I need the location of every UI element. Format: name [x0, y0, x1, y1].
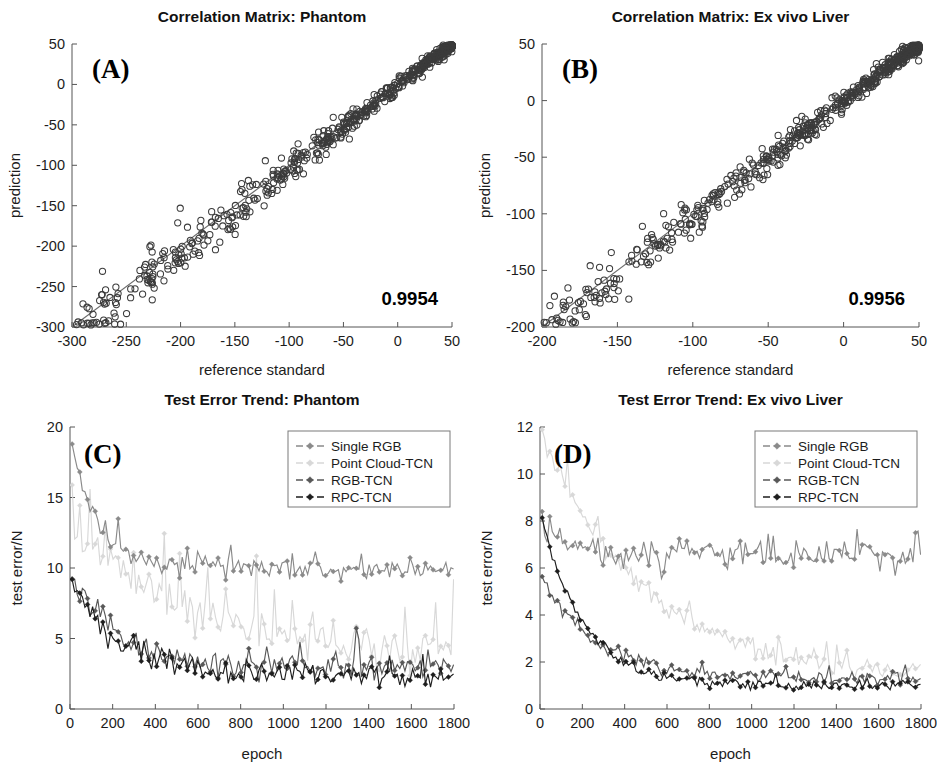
x-tick-label: 600 [186, 715, 210, 731]
x-tick-label: 0 [394, 333, 402, 349]
x-tick-label: 200 [101, 715, 125, 731]
x-tick-label: 400 [143, 715, 167, 731]
correlation-value: 0.9956 [848, 288, 905, 309]
x-tick-label: 1000 [736, 715, 768, 731]
x-axis-label: reference standard [199, 361, 325, 378]
panel-b-canvas: Correlation Matrix: Ex vivo Liver-200-15… [470, 0, 937, 385]
x-tick-label: -200 [166, 333, 195, 349]
figure-root: Correlation Matrix: Phantom-300-250-200-… [0, 0, 937, 771]
series-rgb-tcn [540, 574, 921, 688]
y-tick-label: -200 [36, 238, 65, 254]
y-tick-label: 12 [517, 419, 533, 435]
series-rgb-tcn [70, 576, 454, 682]
x-tick-label: 800 [697, 715, 721, 731]
series-point-cloud-tcn [70, 482, 454, 678]
series-rpc-tcn [70, 577, 454, 690]
x-axis-label: reference standard [668, 361, 794, 378]
y-tick-label: -250 [36, 279, 65, 295]
panel-d-canvas: Test Error Trend: Ex vivo Liver020040060… [470, 385, 937, 771]
legend-label: Single RGB [331, 439, 402, 454]
x-tick-label: 200 [570, 715, 594, 731]
y-tick-label: -100 [36, 157, 65, 173]
x-tick-label: 1200 [310, 715, 342, 731]
scatter-points [73, 42, 455, 328]
x-tick-label: 1600 [863, 715, 895, 731]
x-axis-label: epoch [242, 745, 283, 762]
x-tick-label: -100 [275, 333, 304, 349]
x-tick-label: -50 [758, 333, 779, 349]
y-tick-label: 0 [527, 93, 535, 109]
panel-title: Test Error Trend: Phantom [164, 391, 359, 408]
x-tick-label: 50 [444, 333, 460, 349]
x-tick-label: 0 [536, 715, 544, 731]
scatter-points [541, 42, 922, 327]
panel-a-canvas: Correlation Matrix: Phantom-300-250-200-… [0, 0, 470, 385]
y-tick-label: 20 [47, 419, 63, 435]
x-tick-label: -100 [678, 333, 707, 349]
x-tick-label: 1800 [905, 715, 937, 731]
y-tick-label: 10 [517, 466, 533, 482]
x-tick-label: 50 [911, 333, 927, 349]
y-tick-label: 4 [525, 607, 533, 623]
panel-tag: (C) [84, 439, 121, 469]
panel-title: Correlation Matrix: Ex vivo Liver [612, 8, 850, 25]
y-tick-label: 0 [55, 701, 63, 717]
y-tick-label: 0 [57, 76, 65, 92]
legend-label: Point Cloud-TCN [331, 456, 433, 471]
x-tick-label: 1200 [778, 715, 810, 731]
panel-b: Correlation Matrix: Ex vivo Liver-200-15… [470, 0, 937, 385]
y-tick-label: -300 [36, 319, 65, 335]
x-tick-label: 1400 [353, 715, 385, 731]
x-tick-label: -150 [220, 333, 249, 349]
panel-tag: (A) [92, 54, 129, 84]
x-tick-label: -200 [527, 333, 556, 349]
panel-title: Test Error Trend: Ex vivo Liver [618, 391, 843, 408]
legend-label: RPC-TCN [331, 490, 392, 505]
panel-tag: (D) [554, 439, 591, 469]
legend-label: RGB-TCN [798, 473, 860, 488]
legend-label: RGB-TCN [331, 473, 393, 488]
x-axis-label: epoch [710, 745, 751, 762]
panel-c: Test Error Trend: Phantom020040060080010… [0, 385, 470, 771]
panel-title: Correlation Matrix: Phantom [158, 8, 366, 25]
y-tick-label: 8 [525, 513, 533, 529]
y-tick-label: -50 [44, 117, 65, 133]
y-tick-label: 6 [525, 560, 533, 576]
panel-d: Test Error Trend: Ex vivo Liver020040060… [470, 385, 937, 771]
y-axis-label: test error/N [478, 530, 495, 605]
x-tick-label: -300 [57, 333, 86, 349]
x-tick-label: 1400 [820, 715, 852, 731]
x-tick-label: -150 [603, 333, 632, 349]
panel-tag: (B) [562, 54, 598, 84]
y-axis-label: prediction [476, 153, 493, 218]
y-tick-label: -150 [36, 198, 65, 214]
y-tick-label: 50 [49, 36, 65, 52]
x-tick-label: 600 [655, 715, 679, 731]
x-tick-label: 1600 [395, 715, 427, 731]
x-tick-label: 0 [840, 333, 848, 349]
y-tick-label: -50 [514, 149, 535, 165]
y-tick-label: 50 [519, 36, 535, 52]
x-tick-label: 400 [613, 715, 637, 731]
x-tick-label: 800 [229, 715, 253, 731]
x-tick-label: 1800 [438, 715, 470, 731]
x-tick-label: -250 [112, 333, 141, 349]
y-tick-label: 10 [47, 560, 63, 576]
y-tick-label: 5 [55, 631, 63, 647]
y-tick-label: -200 [506, 319, 535, 335]
panel-a: Correlation Matrix: Phantom-300-250-200-… [0, 0, 470, 385]
panel-c-canvas: Test Error Trend: Phantom020040060080010… [0, 385, 470, 771]
x-tick-label: -50 [333, 333, 354, 349]
y-tick-label: 15 [47, 490, 63, 506]
legend-label: RPC-TCN [798, 490, 859, 505]
y-axis-label: test error/N [8, 530, 25, 605]
x-tick-label: 0 [66, 715, 74, 731]
legend: Single RGBPoint Cloud-TCNRGB-TCNRPC-TCN [288, 431, 450, 507]
legend-label: Point Cloud-TCN [798, 456, 900, 471]
y-tick-label: 2 [525, 654, 533, 670]
x-tick-label: 1000 [267, 715, 299, 731]
y-tick-label: -100 [506, 206, 535, 222]
y-axis-label: prediction [6, 153, 23, 218]
correlation-value: 0.9954 [381, 288, 438, 309]
legend-label: Single RGB [798, 439, 869, 454]
